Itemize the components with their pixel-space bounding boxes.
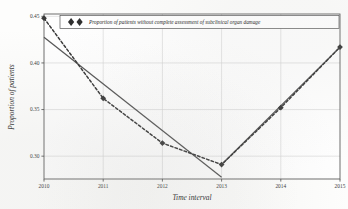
x-axis-title: Time interval [172, 193, 211, 202]
svg-text:2015: 2015 [335, 183, 346, 189]
svg-text:2012: 2012 [157, 183, 168, 189]
x-axis-ticks: 201020112012201320142015 [39, 179, 346, 189]
svg-text:2010: 2010 [39, 183, 50, 189]
svg-text:0.35: 0.35 [30, 106, 40, 112]
legend-entry-label: Proportion of patients without complete … [88, 19, 261, 25]
svg-text:2013: 2013 [216, 183, 227, 189]
svg-text:0.45: 0.45 [30, 13, 40, 19]
y-axis-title: Proportion of patients [7, 64, 16, 131]
chart-canvas: 0.450.400.350.30 20102011201220132014201… [0, 0, 348, 209]
svg-text:2014: 2014 [275, 183, 286, 189]
svg-text:0.30: 0.30 [30, 153, 40, 159]
svg-text:0.40: 0.40 [30, 60, 40, 66]
svg-text:2011: 2011 [98, 183, 109, 189]
chart-figure: 0.450.400.350.30 20102011201220132014201… [0, 0, 348, 209]
chart-legend: Proportion of patients without complete … [60, 16, 339, 29]
y-axis-ticks: 0.450.400.350.30 [30, 13, 44, 159]
